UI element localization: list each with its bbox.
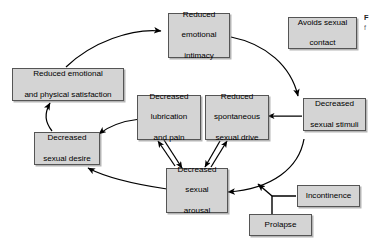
node-decreased-lubrication-and-pain[interactable]: Decreased lubrication and pain (137, 95, 201, 140)
node-decreased-sexual-stimuli[interactable]: Decreased sexual stimuli (303, 98, 366, 131)
edge-junction-to-arousal (258, 184, 272, 196)
node-label: Incontinence (302, 191, 356, 201)
edge-lubrication-to-desire (99, 119, 140, 134)
node-label: Prolapse (261, 220, 301, 230)
edge-incontinence-to-arousal (272, 196, 296, 214)
edge-satisfaction-to-intimacy (66, 31, 161, 67)
node-reduced-spontaneous-sexual-drive[interactable]: Reduced spontaneous sexual drive (205, 95, 269, 140)
figure-caption: F f (364, 13, 381, 32)
node-incontinence[interactable]: Incontinence (297, 185, 360, 207)
node-label: Decreased sexual desire (39, 133, 94, 164)
node-avoids-sexual-contact[interactable]: Avoids sexual contact (288, 17, 357, 49)
figure-canvas: Reduced emotional intimacy Avoids sexual… (0, 0, 381, 242)
node-decreased-sexual-arousal[interactable]: Decreased sexual arousal (166, 168, 228, 213)
node-label: Decreased lubrication and pain (146, 92, 193, 143)
edge-arousal-to-desire (88, 168, 167, 189)
edge-spontaneous-drive-to-arousal (205, 141, 220, 167)
node-prolapse[interactable]: Prolapse (249, 214, 312, 236)
edge-arousal-to-spontaneous-drive (211, 141, 227, 167)
node-reduced-emotional-intimacy[interactable]: Reduced emotional intimacy (168, 13, 230, 58)
node-label: Decreased sexual stimuli (306, 99, 362, 130)
node-label: Reduced emotional intimacy (178, 10, 221, 61)
node-label: Avoids sexual contact (294, 18, 352, 49)
node-reduced-emotional-and-physical-satisfaction[interactable]: Reduced emotional and physical satisfact… (12, 68, 124, 101)
node-label: Decreased sexual arousal (174, 165, 221, 216)
edge-stimuli-to-arousal (228, 139, 304, 192)
node-decreased-sexual-desire[interactable]: Decreased sexual desire (34, 132, 100, 165)
edge-desire-to-satisfaction (46, 103, 52, 131)
node-label: Reduced emotional and physical satisfact… (20, 69, 115, 100)
caption-line-2: f (364, 23, 381, 33)
caption-line-1: F (364, 13, 381, 23)
node-label: Reduced spontaneous sexual drive (210, 92, 264, 143)
